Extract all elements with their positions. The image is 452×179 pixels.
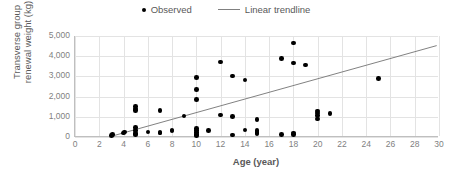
data-point [255,131,260,136]
data-point [218,60,223,65]
data-point [110,132,115,137]
x-axis-tick-label: 22 [330,139,354,149]
y-axis-tick-label: 2,000 [30,91,70,101]
legend-entry-trendline: Linear trendline [218,4,311,15]
x-axis-tick-label: 26 [378,139,402,149]
x-axis-tick-label: 2 [87,139,111,149]
data-point [279,56,284,61]
x-axis-title: Age (year) [74,156,438,167]
chart-legend: Observed Linear trendline [0,4,452,15]
data-point [328,111,333,116]
legend-label-observed: Observed [151,4,192,15]
x-axis-tick-label: 16 [257,139,281,149]
data-point [376,76,381,81]
legend-label-trendline: Linear trendline [245,4,311,15]
x-axis-tick-label: 4 [112,139,136,149]
data-point [315,117,320,122]
data-point [133,132,138,137]
x-axis-tick-label: 12 [209,139,233,149]
data-point [194,97,199,102]
data-point [291,61,296,66]
x-axis-tick-label: 6 [136,139,160,149]
x-axis-tick-label: 0 [63,139,87,149]
data-point [206,128,211,133]
y-axis-tick-label: 3,000 [30,70,70,80]
gridline-horizontal [75,137,438,138]
x-axis-tick-label: 8 [160,139,184,149]
y-axis-tick-label: 4,000 [30,50,70,60]
y-axis-tick-label: 5,000 [30,30,70,40]
x-axis-tick-label: 24 [354,139,378,149]
data-point [291,132,296,137]
data-point [194,133,199,138]
data-point [194,87,199,92]
x-axis-tick-label: 20 [306,139,330,149]
data-point [255,117,260,122]
x-axis-tick-label: 10 [184,139,208,149]
x-axis-tick-label: 30 [427,139,451,149]
x-axis-tick-label: 28 [403,139,427,149]
data-point [194,75,199,80]
y-axis-tick-label: 1,000 [30,111,70,121]
scatter-chart: Observed Linear trendline Transverse gro… [0,0,452,179]
trendline-icon [218,9,240,10]
x-axis-tick-label: 14 [233,139,257,149]
x-axis-tick-label: 18 [281,139,305,149]
scatter-dot-icon [142,8,146,12]
legend-entry-observed: Observed [142,4,192,15]
gridline-vertical [439,36,440,136]
data-point [279,132,284,137]
data-point [291,41,296,46]
data-point [230,114,235,119]
plot-area: 024681012141618202224262830 [74,36,438,137]
data-point [133,108,138,113]
